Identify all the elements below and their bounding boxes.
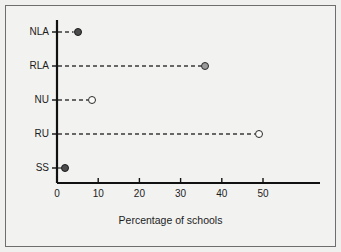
data-point-marker [88,96,96,104]
x-tick-label: 40 [216,189,227,199]
y-tick-label: SS [36,163,49,173]
data-point-marker [201,62,209,70]
y-tick-label: RLA [30,61,49,71]
x-tick-label: 10 [93,189,104,199]
x-tick-label: 0 [54,189,60,199]
figure: NLARLANURUSS 01020304050 Percentage of s… [0,0,341,252]
data-point-marker [61,164,69,172]
y-tick-label: NLA [30,27,49,37]
y-tick-label: NU [35,95,49,105]
y-tick-label: RU [35,129,49,139]
x-tick-label: 50 [257,189,268,199]
x-tick-label: 20 [134,189,145,199]
x-tick-label: 30 [175,189,186,199]
x-axis-title: Percentage of schools [0,214,341,226]
data-point-marker [255,130,263,138]
data-point-marker [74,28,82,36]
